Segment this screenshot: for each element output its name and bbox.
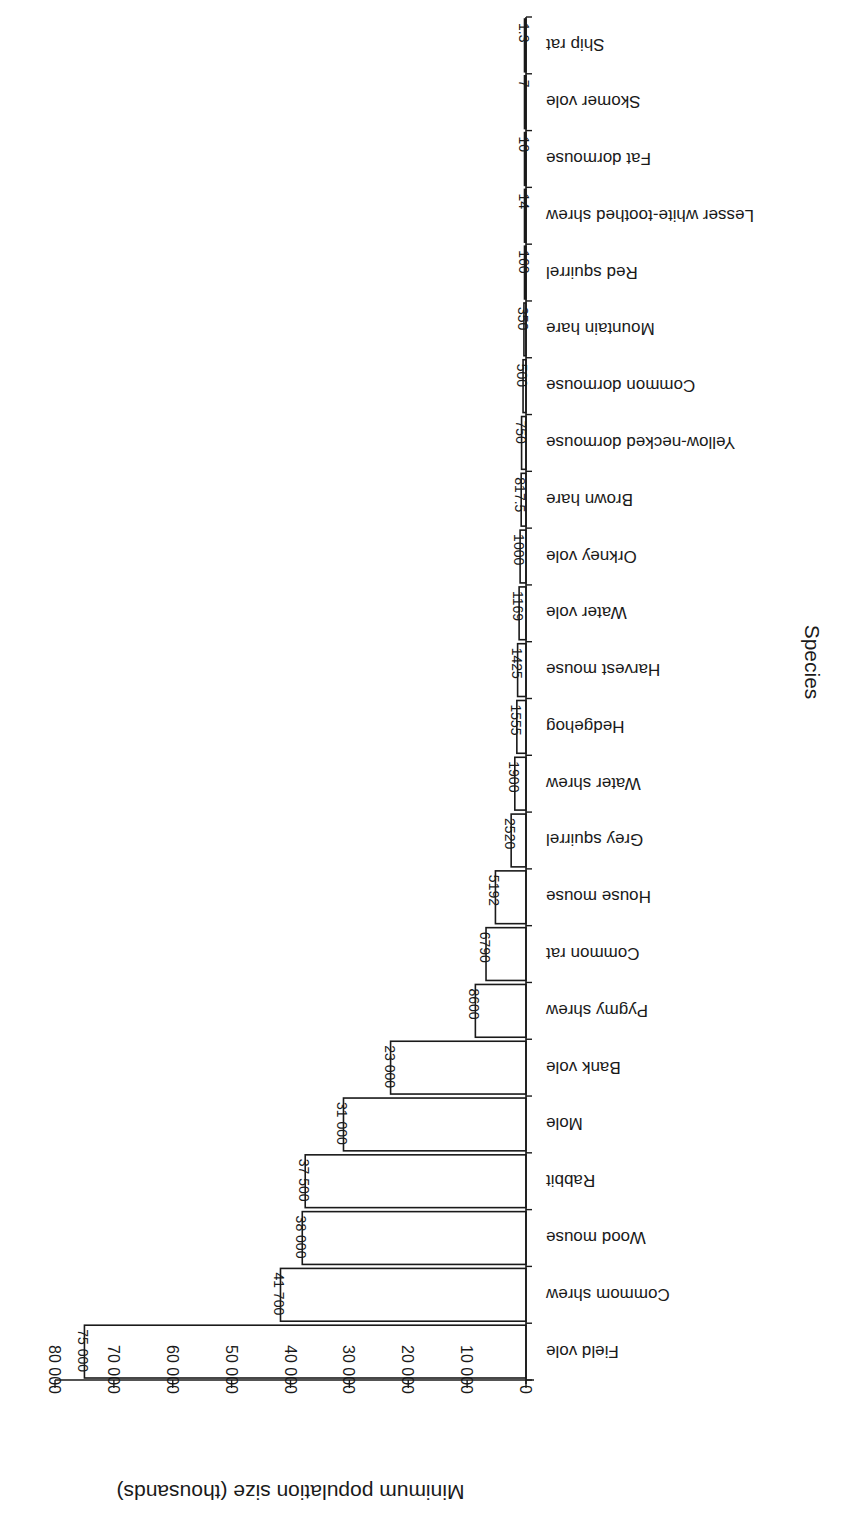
category-label: Field vole	[546, 1342, 619, 1361]
value-tick-label: 30 000	[340, 1345, 357, 1394]
category-label: Common dormouse	[546, 376, 695, 395]
category-label: Grey squirrel	[546, 830, 643, 849]
value-axis-title: Minimum population size (thousands)	[117, 1481, 465, 1504]
value-tick-label: 10 000	[458, 1345, 475, 1394]
category-labels-group: Field voleCommom shrewWood mouseRabbitMo…	[545, 35, 754, 1360]
category-label: Rabbit	[546, 1171, 595, 1190]
value-tick-label: 70 000	[105, 1345, 122, 1394]
bar-value-label: 160	[516, 250, 532, 274]
bar-value-label: 6790	[477, 932, 493, 963]
bar-chart: 75 00041 70038 00037 50031 00023 0008600…	[0, 0, 844, 1528]
category-label: Commom shrew	[545, 1285, 669, 1304]
category-label: Common rat	[546, 944, 640, 963]
bar	[343, 1098, 526, 1151]
bar-value-label: 7	[516, 80, 532, 88]
bar-value-label: 2520	[502, 818, 518, 849]
bar-value-label: 14	[516, 193, 532, 209]
category-label: Mountain hare	[546, 319, 655, 338]
bar-value-label: 41 700	[271, 1272, 287, 1315]
category-label: Brown hare	[546, 490, 633, 509]
bar	[305, 1155, 526, 1208]
bar-value-label: 37 500	[296, 1159, 312, 1202]
category-label: Hedgehog	[546, 717, 624, 736]
category-axis-title: Species	[801, 625, 824, 700]
category-label: Red squirrel	[546, 263, 638, 282]
bar-value-label: 1900	[506, 761, 522, 792]
value-tick-label: 20 000	[399, 1345, 416, 1394]
bar	[302, 1212, 526, 1265]
value-tick-label: 40 000	[282, 1345, 299, 1394]
category-label: Mole	[546, 1114, 583, 1133]
bar-value-label: 1000	[511, 534, 527, 565]
bar-value-label: 1169	[510, 591, 526, 621]
value-tick-label: 50 000	[223, 1345, 240, 1394]
bar-value-label: 31 000	[334, 1102, 350, 1145]
category-label: Water vole	[546, 603, 627, 622]
category-label: Pygmy shrew	[545, 1001, 648, 1020]
bar-value-label: 38 000	[293, 1216, 309, 1259]
bar	[391, 1041, 526, 1094]
bar-value-label: 1555	[508, 705, 524, 736]
category-label: Ship rat	[546, 35, 605, 54]
plot-area: 75 00041 70038 00037 50031 00023 0008600…	[46, 17, 824, 1504]
category-label: Fat dormouse	[546, 149, 651, 168]
category-label: Harvest mouse	[546, 660, 660, 679]
bar-value-label: 10	[516, 137, 532, 153]
value-tick-label: 60 000	[164, 1345, 181, 1394]
category-label: Orkney vole	[546, 547, 637, 566]
bar-value-label: 1425	[509, 648, 525, 679]
bar-value-label: 23 000	[382, 1045, 398, 1088]
bar-value-label: 8600	[466, 988, 482, 1019]
bar-value-label: 500	[514, 364, 530, 388]
category-label: Yellow-necked dormouse	[546, 433, 735, 452]
bar-value-label: 350	[515, 307, 531, 331]
bar-value-label: 1.3	[516, 23, 532, 43]
category-label: Bank vole	[546, 1058, 621, 1077]
category-label: Wood mouse	[546, 1228, 646, 1247]
category-label: Lesser white-toothed shrew	[545, 206, 754, 225]
value-tick-label: 0	[517, 1385, 534, 1394]
bar	[280, 1268, 526, 1321]
bar-value-label: 75 000	[75, 1329, 91, 1372]
category-label: House mouse	[546, 887, 651, 906]
category-label: Skomer vole	[546, 92, 640, 111]
value-tick-label: 80 000	[46, 1345, 63, 1394]
category-label: Water shrew	[545, 774, 641, 793]
bar-value-label: 5192	[486, 875, 502, 906]
